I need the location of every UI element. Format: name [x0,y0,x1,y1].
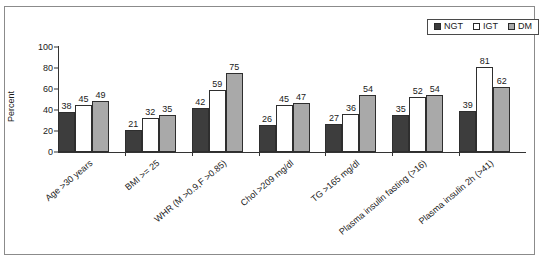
bar-value-label: 21 [128,119,138,129]
bar-slot: 54 [426,47,443,152]
bar-slot: 59 [209,47,226,152]
bar-group: 398162 [459,47,526,152]
bar-group: 273654 [325,47,392,152]
bar-value-label: 42 [195,97,205,107]
bar-slot: 49 [92,47,109,152]
bar-dm-0[interactable] [92,101,109,152]
legend-label-igt: IGT [483,22,498,31]
bar-slot: 45 [75,47,92,152]
bar-value-label: 45 [78,94,88,104]
bar-value-label: 35 [162,104,172,114]
gray-square-icon [508,23,515,30]
bar-groups: 3845492132354259752645472736543552543981… [58,47,526,152]
white-square-icon [473,23,480,30]
bar-slot: 52 [409,47,426,152]
bar-dm-1[interactable] [159,115,176,152]
y-axis-label: Percent [6,66,20,146]
bar-value-label: 35 [396,104,406,114]
bar-igt-5[interactable] [409,97,426,152]
bar-dm-6[interactable] [493,87,510,152]
bar-slot: 62 [493,47,510,152]
bar-slot: 45 [276,47,293,152]
chart-screenshot: NGT IGT DM Percent 020406080100 38454921… [0,0,546,268]
bar-ngt-5[interactable] [392,115,409,152]
x-axis-label-4: TG >165 mg/dl [310,158,362,204]
bar-dm-2[interactable] [226,73,243,152]
bar-slot: 21 [125,47,142,152]
bar-ngt-4[interactable] [325,124,342,152]
bar-value-label: 81 [480,56,490,66]
bar-igt-6[interactable] [476,67,493,152]
bar-dm-3[interactable] [293,103,310,152]
bar-slot: 26 [259,47,276,152]
bar-value-label: 27 [329,113,339,123]
bar-slot: 54 [359,47,376,152]
bar-group: 213235 [125,47,192,152]
bar-value-label: 49 [95,90,105,100]
legend-item-ngt: NGT [434,22,463,31]
bar-value-label: 26 [262,114,272,124]
legend-item-igt: IGT [473,22,498,31]
legend-label-ngt: NGT [444,22,463,31]
bar-value-label: 47 [296,92,306,102]
bar-dm-5[interactable] [426,95,443,152]
bar-dm-4[interactable] [359,95,376,152]
bar-slot: 36 [342,47,359,152]
bar-value-label: 39 [463,100,473,110]
x-axis-label-6: Plasma insulin 2h (>41) [417,158,496,226]
bar-igt-3[interactable] [276,105,293,152]
bar-ngt-6[interactable] [459,111,476,152]
x-axis-label-1: BMI >= 25 [123,158,161,192]
bar-slot: 35 [159,47,176,152]
bar-slot: 81 [476,47,493,152]
bar-slot: 38 [58,47,75,152]
bar-slot: 27 [325,47,342,152]
bar-group: 264547 [259,47,326,152]
bar-ngt-3[interactable] [259,125,276,152]
bar-value-label: 45 [279,94,289,104]
bar-value-label: 59 [212,79,222,89]
x-axis-labels: Age >30 yearsBMI >= 25WHR (M >0.9,F >0.8… [58,152,526,252]
x-axis-label-2: WHR (M >0.9,F >0.85) [152,158,228,224]
bar-slot: 35 [392,47,409,152]
bar-slot: 42 [192,47,209,152]
bar-slot: 39 [459,47,476,152]
legend-item-dm: DM [508,22,532,31]
bar-igt-1[interactable] [142,118,159,152]
chart-legend: NGT IGT DM [427,19,539,35]
bar-value-label: 54 [363,84,373,94]
bar-value-label: 75 [229,62,239,72]
bar-slot: 32 [142,47,159,152]
bar-value-label: 62 [497,76,507,86]
bar-group: 355254 [392,47,459,152]
dark-square-icon [434,23,441,30]
bar-igt-0[interactable] [75,105,92,152]
bar-value-label: 32 [145,107,155,117]
bar-igt-2[interactable] [209,90,226,152]
bar-slot: 47 [293,47,310,152]
bar-value-label: 38 [61,101,71,111]
legend-label-dm: DM [518,22,532,31]
bar-igt-4[interactable] [342,114,359,152]
bar-slot: 75 [226,47,243,152]
x-axis-label-3: Chol >209 mg/dl [238,158,295,208]
bar-ngt-1[interactable] [125,130,142,152]
bar-value-label: 36 [346,103,356,113]
bar-group: 425975 [192,47,259,152]
bar-ngt-0[interactable] [58,112,75,152]
bar-value-label: 54 [430,84,440,94]
bar-ngt-2[interactable] [192,108,209,152]
bar-value-label: 52 [413,86,423,96]
bar-group: 384549 [58,47,125,152]
